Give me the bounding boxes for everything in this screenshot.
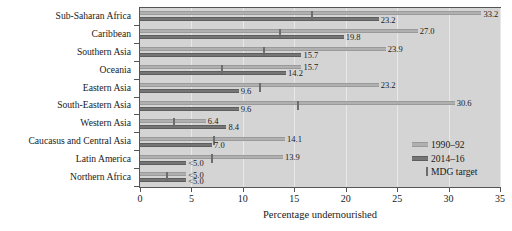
y-axis-label-south-eastern-asia: South-Eastern Asia (57, 100, 131, 110)
legend-label: MDG target (431, 165, 477, 179)
value-label-1990-92: 30.6 (457, 99, 472, 108)
y-axis-label-sub-saharan-africa: Sub-Saharan Africa (56, 11, 131, 21)
value-label-1990-92: 6.4 (208, 117, 219, 126)
value-label-2014-16: <5.0 (188, 177, 203, 186)
bar-2014-16 (140, 178, 186, 182)
y-axis-label-western-asia: Western Asia (80, 118, 131, 128)
y-axis-label-oceania: Oceania (100, 65, 131, 75)
bar-2014-16 (140, 35, 344, 39)
legend-item: MDG target (412, 165, 477, 179)
gridline (500, 8, 501, 187)
value-label-1990-92: 13.9 (285, 153, 300, 162)
value-label-2014-16: 19.8 (346, 33, 361, 42)
value-label-2014-16: 8.4 (228, 123, 239, 132)
value-label-1990-92: 33.2 (483, 10, 498, 19)
y-axis-label-caribbean: Caribbean (92, 29, 131, 39)
legend-item: 1990–92 (412, 138, 477, 152)
chart-row: 30.69.6 (140, 98, 500, 116)
x-axis-tick-label: 25 (392, 193, 402, 204)
value-label-2014-16: 9.6 (241, 105, 252, 114)
bar-2014-16 (140, 89, 239, 93)
chart-row: 6.48.4 (140, 115, 500, 133)
x-axis-tick (397, 188, 398, 192)
bar-2014-16 (140, 143, 212, 147)
value-label-2014-16: 14.2 (288, 69, 303, 78)
value-label-1990-92: 23.2 (381, 81, 396, 90)
legend-swatch-new (412, 156, 428, 161)
chart-row: 23.915.7 (140, 44, 500, 62)
legend-label: 2014–16 (431, 152, 465, 166)
value-label-2014-16: 15.7 (303, 51, 318, 60)
x-axis-tick (500, 188, 501, 192)
bar-2014-16 (140, 53, 301, 57)
value-label-2014-16: 23.2 (381, 16, 396, 25)
value-label-2014-16: 7.0 (214, 141, 225, 150)
y-axis-label-northern-africa: Northern Africa (70, 172, 131, 182)
bar-1990-92 (140, 172, 186, 176)
x-axis-tick-label: 35 (495, 193, 505, 204)
value-label-1990-92: 23.9 (388, 45, 403, 54)
chart-row: 23.29.6 (140, 80, 500, 98)
bar-2014-16 (140, 71, 286, 75)
y-axis-label-eastern-asia: Eastern Asia (83, 83, 131, 93)
mdg-target-marker (166, 172, 168, 181)
mdg-target-marker (259, 83, 261, 92)
mdg-target-marker (211, 154, 213, 163)
y-axis-labels: Sub-Saharan AfricaCaribbeanSouthern Asia… (0, 7, 136, 188)
value-label-2014-16: <5.0 (188, 159, 203, 168)
x-axis-tick-label: 5 (189, 193, 194, 204)
x-axis-tick (191, 188, 192, 192)
legend-label: 1990–92 (431, 138, 465, 152)
value-label-1990-92: 27.0 (420, 27, 435, 36)
mdg-target-marker (173, 118, 175, 127)
x-axis-tick (140, 188, 141, 192)
chart-row: 15.714.2 (140, 62, 500, 80)
value-label-2014-16: 9.6 (241, 87, 252, 96)
mdg-target-marker (311, 11, 313, 20)
mdg-target-marker (297, 101, 299, 110)
x-axis-title: Percentage undernourished (139, 209, 501, 220)
y-axis-label-latin-america: Latin America (76, 154, 131, 164)
x-axis-tick-label: 30 (444, 193, 454, 204)
y-axis-label-caucasus-and-central-asia: Caucasus and Central Asia (28, 136, 131, 146)
chart-row: 27.019.8 (140, 26, 500, 44)
x-axis-tick (294, 188, 295, 192)
x-axis-tick-label: 20 (341, 193, 351, 204)
bar-2014-16 (140, 107, 239, 111)
bar-2014-16 (140, 17, 379, 21)
mdg-target-marker (263, 47, 265, 56)
y-axis-label-southern-asia: Southern Asia (77, 47, 131, 57)
x-axis-tick (346, 188, 347, 192)
x-axis-tick-label: 0 (138, 193, 143, 204)
legend-swatch-mdg-target (412, 167, 428, 176)
mdg-target-marker (221, 65, 223, 74)
chart-container: Sub-Saharan AfricaCaribbeanSouthern Asia… (0, 0, 512, 231)
x-axis-tick (449, 188, 450, 192)
bar-2014-16 (140, 161, 186, 165)
x-axis-tick-label: 10 (238, 193, 248, 204)
chart-legend: 1990–922014–16MDG target (412, 138, 477, 179)
legend-swatch-old (412, 142, 428, 147)
x-axis-tick (243, 188, 244, 192)
mdg-target-marker (279, 29, 281, 38)
legend-item: 2014–16 (412, 152, 477, 166)
value-label-1990-92: 14.1 (287, 135, 302, 144)
x-axis-tick-label: 15 (289, 193, 299, 204)
chart-row: 33.223.2 (140, 8, 500, 26)
value-label-1990-92: 15.7 (303, 63, 318, 72)
